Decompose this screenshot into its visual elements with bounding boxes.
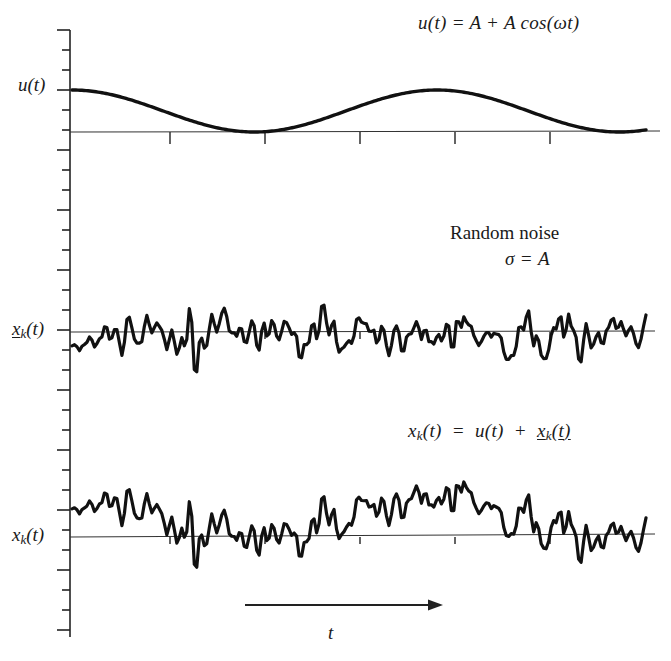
panel-u-ylabel: u(t) xyxy=(18,74,45,96)
panel-noise-ylabel: xk(t) xyxy=(12,318,44,342)
equation-top: u(t) = A + A cos(ωt) xyxy=(418,12,579,34)
panel-u-ylabel-text: u(t) xyxy=(18,74,45,95)
x-axis-ticks-bottom xyxy=(170,537,550,544)
noise-title: Random noise xyxy=(450,222,559,244)
noise-sigma-text: σ = A xyxy=(505,248,550,269)
noise-sigma-annotation: σ = A xyxy=(505,248,550,270)
trace-signal-plus-noise xyxy=(72,482,646,567)
vertical-axis-ticks xyxy=(57,30,70,630)
time-arrow xyxy=(245,600,443,611)
equation-bottom-noise-term: xk(t) xyxy=(537,420,571,441)
signal-noise-figure xyxy=(0,0,671,661)
time-axis-label-text: t xyxy=(328,622,333,643)
noise-title-text: Random noise xyxy=(450,222,559,243)
vertical-axis xyxy=(57,30,70,637)
trace-deterministic-signal xyxy=(72,90,646,132)
baseline-panel-sum xyxy=(70,534,655,537)
equation-bottom: xk(t) = u(t) + xk(t) xyxy=(408,420,571,444)
x-axis-ticks-top xyxy=(170,132,550,144)
panel-sum-ylabel: xk(t) xyxy=(12,524,44,548)
baseline-panel-u xyxy=(70,131,660,132)
trace-random-noise xyxy=(72,305,646,372)
equation-top-text: u(t) = A + A cos(ωt) xyxy=(418,12,579,33)
time-axis-label: t xyxy=(328,622,333,644)
